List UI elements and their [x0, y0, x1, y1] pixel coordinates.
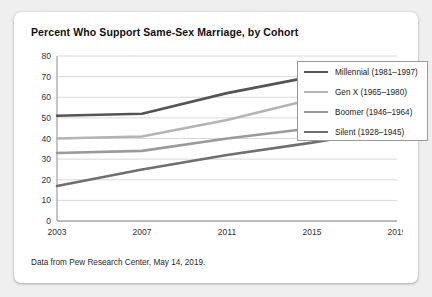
source-caption: Data from Pew Research Center, May 14, 2… [31, 258, 205, 267]
legend-label-silent: Silent (1928–1945) [335, 128, 404, 137]
legend-item-boomer[interactable]: Boomer (1946–1964) [298, 102, 427, 122]
legend-item-silent[interactable]: Silent (1928–1945) [298, 122, 427, 142]
y-axis-tick-label: 30 [42, 154, 52, 164]
y-axis-tick-label: 80 [42, 51, 52, 61]
legend-label-boomer: Boomer (1946–1964) [335, 108, 412, 117]
legend-swatch-boomer [304, 111, 328, 113]
legend-label-gen-x: Gen X (1965–1980) [335, 88, 407, 97]
y-axis-tick-label: 20 [42, 175, 52, 185]
legend-swatch-silent [304, 131, 328, 133]
legend-item-gen-x[interactable]: Gen X (1965–1980) [298, 82, 427, 102]
page-root: Percent Who Support Same-Sex Marriage, b… [0, 0, 432, 297]
y-axis-tick-label: 50 [42, 113, 52, 123]
legend-swatch-millennial [304, 71, 328, 73]
y-axis-tick-label: 10 [42, 195, 52, 205]
y-axis-tick-label: 70 [42, 72, 52, 82]
chart-legend: Millennial (1981–1997) Gen X (1965–1980)… [297, 61, 428, 141]
chart-card: Percent Who Support Same-Sex Marriage, b… [14, 12, 418, 283]
y-axis-tick-label: 0 [46, 216, 51, 226]
x-axis-tick-label: 2015 [303, 227, 322, 237]
y-axis-tick-label: 40 [42, 134, 52, 144]
legend-swatch-gen-x [304, 91, 328, 93]
x-axis-tick-label: 2003 [48, 227, 67, 237]
x-axis-tick-label: 2019 [388, 227, 403, 237]
legend-item-millennial[interactable]: Millennial (1981–1997) [298, 62, 427, 82]
y-axis-tick-label: 60 [42, 92, 52, 102]
x-axis-tick-label: 2011 [218, 227, 237, 237]
legend-label-millennial: Millennial (1981–1997) [335, 68, 418, 77]
x-axis-tick-label: 2007 [133, 227, 152, 237]
page-title: Percent Who Support Same-Sex Marriage, b… [31, 26, 298, 38]
